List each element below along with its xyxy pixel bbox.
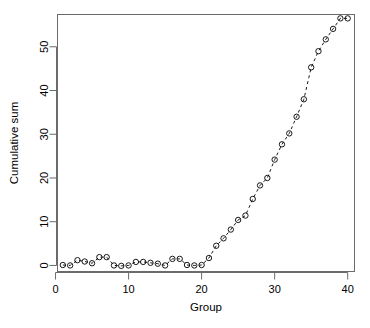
data-point-marker <box>214 243 219 248</box>
x-axis-tick-label: 20 <box>195 283 207 295</box>
y-axis-tick-label: 20 <box>38 172 50 184</box>
data-point-marker <box>265 175 270 180</box>
y-axis-tick-label: 40 <box>38 84 50 96</box>
y-axis-tick-label: 10 <box>38 216 50 228</box>
data-point-marker <box>133 259 138 264</box>
y-axis-title: Cumulative sum <box>8 102 20 184</box>
chart-figure: 010203040 01020304050 Group Cumulative s… <box>0 0 370 328</box>
x-axis-title: Group <box>190 301 222 313</box>
x-axis-tick-label: 0 <box>52 283 58 295</box>
x-axis-ticks: 010203040 <box>52 273 353 296</box>
y-axis-tick-label: 0 <box>38 262 50 268</box>
y-axis-tick-label: 30 <box>38 128 50 140</box>
data-point-marker <box>316 48 321 53</box>
y-axis-ticks: 01020304050 <box>38 41 57 269</box>
x-axis-tick-label: 40 <box>342 283 354 295</box>
series-data-points <box>60 16 350 269</box>
data-point-marker <box>250 196 255 201</box>
x-axis-tick-label: 10 <box>122 283 134 295</box>
scatter-plot-canvas: 010203040 01020304050 Group Cumulative s… <box>0 0 370 328</box>
plot-frame-box <box>58 15 355 272</box>
data-point-marker <box>308 65 313 70</box>
x-axis-tick-label: 30 <box>269 283 281 295</box>
series-line <box>63 18 348 266</box>
data-point-marker <box>243 213 248 218</box>
y-axis-tick-label: 50 <box>38 41 50 53</box>
